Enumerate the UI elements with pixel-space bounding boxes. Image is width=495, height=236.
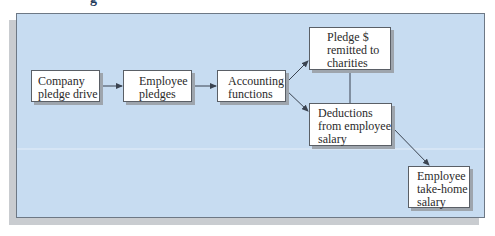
node-line: functions: [228, 88, 279, 101]
node-pledge-remitted: Pledge $ remitted to charities: [309, 27, 391, 70]
node-accounting-functions: Accounting functions: [217, 70, 286, 102]
node-line: charities: [327, 57, 384, 70]
node-company-pledge-drive: Company pledge drive: [31, 70, 100, 102]
node-line: pledges: [139, 88, 185, 101]
heading-fragment: g: [90, 0, 98, 3]
node-employee-pledges: Employee pledges: [123, 70, 192, 102]
node-deductions: Deductions from employee salary: [309, 103, 392, 146]
node-line: pledge drive: [38, 88, 93, 101]
node-take-home-salary: Employee take-home salary: [408, 166, 470, 208]
panel-sheen: [17, 148, 484, 150]
node-line: salary: [417, 196, 463, 209]
node-line: salary: [318, 133, 385, 146]
